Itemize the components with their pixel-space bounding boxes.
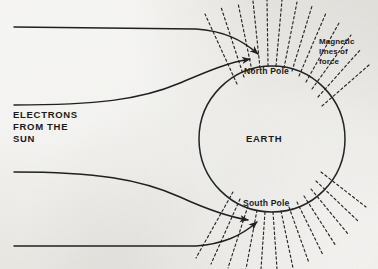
label-electrons-from-the-sun: ELECTRONS FROM THE SUN	[13, 109, 78, 145]
label-north-pole: North Pole	[244, 66, 289, 77]
electron-stream-icon	[14, 27, 258, 54]
electrons-line-1: ELECTRONS	[13, 109, 78, 121]
label-magnetic-lines-of-force: Magnetic lines of force	[319, 37, 354, 68]
label-earth: EARTH	[246, 133, 282, 145]
electrons-line-3: SUN	[13, 133, 78, 145]
electron-stream-icon	[14, 172, 248, 220]
electron-stream-icon	[14, 222, 257, 246]
magnetic-line-1: Magnetic	[319, 37, 354, 47]
magnetosphere-diagram: ELECTRONS FROM THE SUN EARTH North Pole …	[0, 0, 378, 269]
electron-stream-icon	[14, 59, 250, 105]
electrons-line-2: FROM THE	[13, 121, 78, 133]
label-south-pole: South Pole	[243, 198, 289, 209]
magnetic-line-3: force	[319, 57, 354, 67]
magnetic-line-2: lines of	[319, 47, 354, 57]
